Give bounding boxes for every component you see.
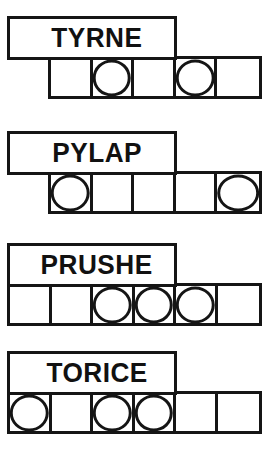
- grid-cell[interactable]: [93, 394, 135, 431]
- answer-grid: [7, 283, 262, 326]
- grid-cell[interactable]: [52, 394, 94, 431]
- grid-cell[interactable]: [52, 286, 94, 323]
- grid-cell[interactable]: [176, 174, 218, 211]
- answer-grid: [7, 391, 262, 434]
- grid-cell[interactable]: [218, 286, 260, 323]
- grid-cell[interactable]: [93, 286, 135, 323]
- grid-cell[interactable]: [51, 174, 93, 211]
- grid-cell[interactable]: [51, 59, 93, 96]
- grid-cell[interactable]: [176, 286, 218, 323]
- word-label-text: TYRNE: [38, 25, 147, 52]
- circle-marker-icon: [176, 286, 215, 323]
- circle-marker-icon: [176, 59, 215, 96]
- grid-cell[interactable]: [134, 59, 176, 96]
- circle-marker-icon: [93, 286, 132, 323]
- answer-grid: [48, 171, 262, 214]
- circle-marker-icon: [217, 174, 259, 211]
- grid-cell[interactable]: [176, 59, 218, 96]
- word-label-box: PYLAP: [7, 131, 177, 175]
- grid-cell[interactable]: [217, 59, 259, 96]
- grid-cell[interactable]: [217, 174, 259, 211]
- grid-cell[interactable]: [134, 174, 176, 211]
- circle-marker-icon: [135, 286, 174, 323]
- puzzle-canvas: TYRNEPYLAPPRUSHETORICE: [0, 0, 275, 449]
- answer-grid: [48, 56, 262, 99]
- grid-cell[interactable]: [135, 286, 177, 323]
- grid-cell[interactable]: [218, 394, 260, 431]
- circle-marker-icon: [51, 174, 90, 211]
- word-label-text: TORICE: [33, 360, 152, 387]
- word-label-text: PYLAP: [38, 140, 145, 167]
- word-label-box: TORICE: [7, 351, 177, 395]
- grid-cell[interactable]: [93, 174, 135, 211]
- circle-marker-icon: [93, 59, 132, 96]
- circle-marker-icon: [135, 394, 174, 431]
- grid-cell[interactable]: [135, 394, 177, 431]
- word-label-text: PRUSHE: [27, 252, 157, 279]
- circle-marker-icon: [10, 394, 49, 431]
- circle-marker-icon: [93, 394, 132, 431]
- word-label-box: TYRNE: [7, 16, 177, 60]
- grid-cell[interactable]: [10, 394, 52, 431]
- word-label-box: PRUSHE: [7, 243, 177, 287]
- grid-cell[interactable]: [10, 286, 52, 323]
- grid-cell[interactable]: [93, 59, 135, 96]
- grid-cell[interactable]: [176, 394, 218, 431]
